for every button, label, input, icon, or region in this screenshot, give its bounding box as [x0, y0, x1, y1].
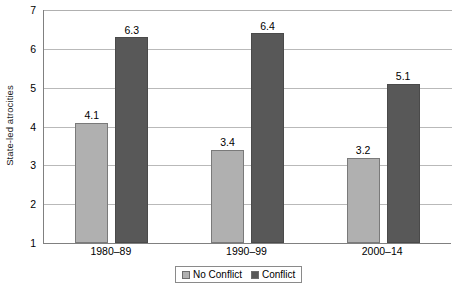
y-tick-label: 4 [30, 121, 36, 132]
y-tick-label: 5 [30, 82, 36, 93]
x-tick-label: 1980–89 [90, 246, 131, 257]
legend-item[interactable]: Conflict [251, 270, 295, 280]
x-axis-tick-labels: 1980–891990–992000–14 [43, 246, 451, 262]
y-tick-label: 1 [30, 238, 36, 249]
legend-label: No Conflict [193, 270, 242, 280]
legend: No ConflictConflict [175, 266, 302, 283]
bar: 4.1 [75, 123, 108, 243]
plot-area: 4.16.33.46.43.25.1 [43, 10, 451, 244]
y-tick-label: 7 [30, 5, 36, 16]
x-tick-label: 2000–14 [362, 246, 403, 257]
legend-label: Conflict [262, 270, 295, 280]
legend-swatch-icon [251, 271, 259, 279]
bars-layer: 4.16.33.46.43.25.1 [44, 10, 451, 243]
y-tick-label: 3 [30, 160, 36, 171]
legend-swatch-icon [182, 271, 190, 279]
y-tick-label: 2 [30, 199, 36, 210]
bar-value-label: 6.3 [125, 25, 140, 36]
bar: 3.2 [347, 158, 380, 243]
bar-value-label: 4.1 [85, 110, 100, 121]
bar-chart: State-led atrocities 1234567 4.16.33.46.… [0, 0, 456, 289]
x-tick-label: 1990–99 [226, 246, 267, 257]
bar: 5.1 [387, 84, 420, 243]
legend-item[interactable]: No Conflict [182, 270, 242, 280]
bar-value-label: 5.1 [396, 71, 411, 82]
y-tick-label: 6 [30, 44, 36, 55]
bar: 6.3 [115, 37, 148, 243]
bar: 3.4 [211, 150, 244, 243]
y-axis-title: State-led atrocities [0, 0, 18, 250]
bar-value-label: 3.2 [356, 145, 371, 156]
bar: 6.4 [251, 33, 284, 243]
bar-value-label: 6.4 [260, 21, 275, 32]
y-axis-title-label: State-led atrocities [4, 85, 15, 166]
y-axis-tick-labels: 1234567 [18, 0, 40, 253]
bar-value-label: 3.4 [220, 137, 235, 148]
